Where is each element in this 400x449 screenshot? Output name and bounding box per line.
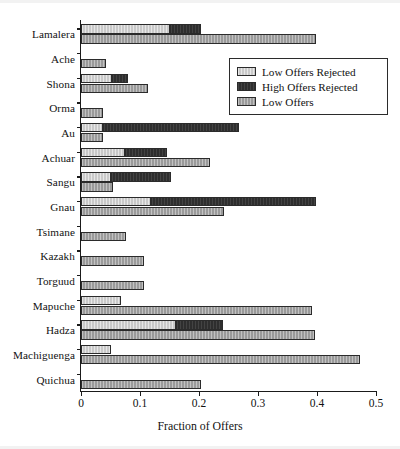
y-axis-tick-label: Shona [47,78,75,90]
y-axis-tick-label: Gnau [50,201,75,213]
scan-artifact-top [0,0,400,3]
bar-low-offers [81,34,316,43]
bar-low-offers-rejected [81,123,103,132]
y-axis-tick [77,102,82,103]
bar-low-offers [81,158,210,167]
y-axis-tick-label: Hadza [46,324,75,336]
dark-swatch [237,82,256,91]
y-axis-tick-label: Lamalera [32,28,75,40]
y-axis-tick-label: Tsimane [37,226,75,238]
bar-low-offers-rejected [81,197,151,206]
chart-row: Machiguenga [81,343,376,368]
bar-low-offers [81,306,312,315]
x-axis-tick [317,391,318,396]
chart-row: Tsimane [81,219,376,244]
legend-item-low-offers-rejected: Low Offers Rejected [237,64,381,79]
bar-high-offers-rejected [103,123,239,132]
y-axis-tick-label: Achuar [41,152,75,164]
y-axis-tick-label: Kazakh [40,250,75,262]
x-axis-tick [81,391,82,396]
y-axis-tick [77,374,82,375]
x-axis-tick-label: 0.3 [251,397,265,409]
bar-low-offers-rejected [81,172,111,181]
chart-row: Au [81,121,376,146]
bar-high-offers-rejected [170,24,201,33]
x-axis-label: Fraction of Offers [0,419,400,434]
chart-row: Hadza [81,318,376,343]
y-axis-tick [77,250,82,251]
bar-low-offers-rejected [81,148,125,157]
x-axis-tick [258,391,259,396]
bar-low-offers-rejected [81,74,112,83]
bar-low-offers [81,330,315,339]
chart-row: Quichua [81,367,376,392]
legend-label: Low Offers Rejected [262,66,356,78]
y-axis-tick [77,275,82,276]
bar-high-offers-rejected [111,172,171,181]
x-axis-tick-label: 0.1 [133,397,147,409]
y-axis-tick-label: Sangu [47,176,75,188]
bar-low-offers-rejected [81,320,176,329]
bar-low-offers [81,133,103,142]
y-axis-tick-label: Orma [49,102,75,114]
bar-low-offers-rejected [81,345,111,354]
bar-high-offers-rejected [125,148,167,157]
bar-low-offers [81,232,126,241]
bar-low-offers [81,207,224,216]
chart-row: Achuar [81,145,376,170]
chart-legend: Low Offers Rejected High Offers Rejected… [229,58,388,115]
bar-low-offers [81,380,201,389]
legend-item-low-offers: Low Offers [237,94,381,109]
chart-row: Gnau [81,195,376,220]
x-axis-tick-label: 0.2 [192,397,206,409]
chart-row: Lamalera [81,22,376,47]
y-axis-tick-label: Au [61,127,75,139]
bar-low-offers [81,281,144,290]
y-axis-tick-label: Machiguenga [13,349,75,361]
legend-label: High Offers Rejected [262,81,357,93]
mid-gray-swatch [237,97,256,106]
legend-label: Low Offers [262,96,314,108]
legend-item-high-offers-rejected: High Offers Rejected [237,79,381,94]
x-axis-tick [376,391,377,396]
bar-low-offers [81,355,360,364]
bar-low-offers [81,108,103,117]
x-axis-tick-label: 0.5 [369,397,383,409]
y-axis-tick [77,53,82,54]
bar-low-offers [81,182,113,191]
bar-high-offers-rejected [176,320,223,329]
bar-low-offers-rejected [81,24,170,33]
light-gray-swatch [237,67,256,76]
bar-low-offers [81,256,144,265]
chart-figure: LamaleraAcheShonaOrmaAuAchuarSanguGnauTs… [0,0,400,449]
y-axis-tick-label: Ache [51,53,75,65]
bar-low-offers [81,59,106,68]
x-axis-tick-label: 0 [78,397,84,409]
y-axis-tick-label: Mapuche [33,300,75,312]
bar-high-offers-rejected [112,74,129,83]
chart-row: Mapuche [81,293,376,318]
x-axis-tick-label: 0.4 [310,397,324,409]
chart-row: Kazakh [81,244,376,269]
chart-row: Sangu [81,170,376,195]
y-axis-tick [77,226,82,227]
chart-row: Torguud [81,269,376,294]
x-axis-tick [199,391,200,396]
bar-low-offers [81,84,148,93]
y-axis-tick-label: Torguud [37,275,75,287]
x-axis-tick [140,391,141,396]
bar-low-offers-rejected [81,296,121,305]
y-axis-tick-label: Quichua [36,374,75,386]
bar-high-offers-rejected [151,197,316,206]
